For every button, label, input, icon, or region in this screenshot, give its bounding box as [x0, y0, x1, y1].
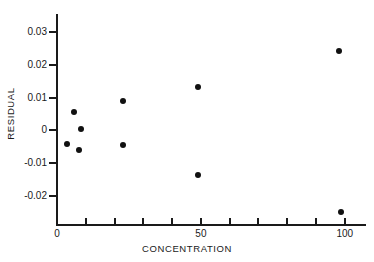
- data-point: [71, 109, 77, 115]
- data-point: [64, 141, 70, 147]
- data-point: [338, 209, 344, 215]
- y-axis-tick: [49, 162, 57, 164]
- x-axis-tick: [200, 218, 202, 225]
- y-axis-tick-label: 0.03: [28, 27, 47, 37]
- x-axis-tick-label: 0: [54, 229, 60, 239]
- data-point: [78, 126, 84, 132]
- x-axis-tick: [142, 218, 144, 225]
- x-axis-tick: [286, 218, 288, 225]
- x-axis-tick-label: 100: [337, 229, 354, 239]
- data-point: [336, 48, 342, 54]
- x-axis-tick: [344, 218, 346, 225]
- x-axis-tick: [229, 218, 231, 225]
- x-axis-line: [56, 224, 366, 226]
- x-axis-tick: [171, 218, 173, 225]
- data-point: [195, 84, 201, 90]
- y-axis-title: RESIDUAL: [5, 79, 16, 149]
- x-axis-tick: [315, 218, 317, 225]
- data-point: [195, 172, 201, 178]
- x-axis-tick: [85, 218, 87, 225]
- plot-area: 0.030.020.010-0.01-0.02 050100 CONCENTRA…: [0, 0, 374, 262]
- y-axis-tick-label: -0.01: [24, 158, 47, 168]
- y-axis-tick: [49, 31, 57, 33]
- x-axis-tick: [257, 218, 259, 225]
- y-axis-tick-label: 0.01: [28, 93, 47, 103]
- y-axis-tick-label: 0.02: [28, 60, 47, 70]
- x-axis-tick: [114, 218, 116, 225]
- x-axis-tick-label: 50: [195, 229, 206, 239]
- data-point: [120, 98, 126, 104]
- scatter-plot-figure: 0.030.020.010-0.01-0.02 050100 CONCENTRA…: [0, 0, 374, 262]
- y-axis-tick: [49, 97, 57, 99]
- y-axis-tick: [49, 64, 57, 66]
- y-axis-tick-label: 0: [41, 125, 47, 135]
- data-point: [120, 142, 126, 148]
- x-axis-title: CONCENTRATION: [0, 243, 374, 254]
- y-axis-tick: [49, 195, 57, 197]
- y-axis-tick-label: -0.02: [24, 191, 47, 201]
- y-axis-tick: [49, 129, 57, 131]
- data-point: [76, 147, 82, 153]
- x-axis-tick: [56, 218, 58, 225]
